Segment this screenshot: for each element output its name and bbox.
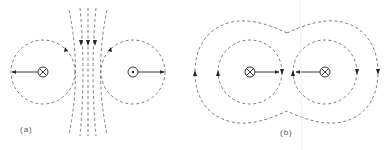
arrowhead-icon — [86, 40, 90, 46]
arrowhead-icon — [291, 70, 295, 76]
field-line-middle-1 — [69, 10, 76, 134]
arrowhead-icon — [193, 70, 197, 76]
field-line-middle-5 — [101, 10, 108, 134]
page-fold-line — [300, 0, 302, 150]
panel-b-label: (b) — [280, 128, 293, 137]
arrowhead-icon — [355, 69, 359, 75]
conductor-b-left — [245, 67, 279, 77]
panel-a-label: (a) — [20, 125, 33, 134]
field-line-middle-2 — [80, 8, 83, 136]
arrowhead-icon — [376, 69, 380, 75]
field-direction-arrows-b — [193, 69, 380, 76]
conductor-a-left — [12, 67, 48, 77]
conductor-a-right — [128, 67, 164, 77]
field-direction-arrows-a — [64, 40, 112, 52]
arrowhead-icon — [216, 70, 220, 76]
field-line-middle-4 — [93, 8, 96, 136]
field-line-outer-enclosing — [195, 21, 378, 123]
magnetic-field-diagram — [0, 0, 389, 150]
panel-b — [195, 21, 378, 123]
arrowhead-icon — [280, 69, 284, 75]
